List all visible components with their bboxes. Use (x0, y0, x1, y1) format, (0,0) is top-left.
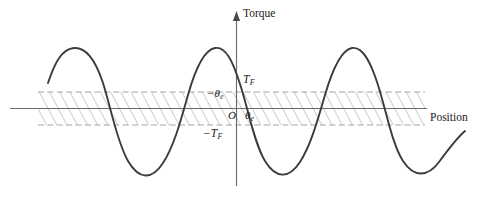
label-origin: O (228, 110, 236, 121)
torque-position-diagram: Torque Position TF −TF −θe θe O (0, 0, 489, 203)
diagram-canvas (0, 0, 489, 203)
y-axis-label: Torque (243, 8, 275, 20)
label-negative-theta-e: −θe (207, 88, 223, 101)
y-axis-arrowhead (233, 11, 240, 21)
label-negative-friction-torque: −TF (203, 128, 222, 141)
x-axis-label: Position (430, 112, 468, 124)
label-positive-friction-torque: TF (243, 74, 254, 87)
label-theta-e: θe (245, 110, 254, 123)
